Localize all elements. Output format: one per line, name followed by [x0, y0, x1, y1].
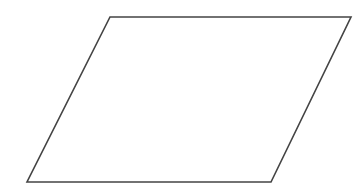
diagram-svg [0, 0, 359, 195]
parallelogram-shape [27, 17, 351, 182]
diagram-canvas [0, 0, 359, 195]
